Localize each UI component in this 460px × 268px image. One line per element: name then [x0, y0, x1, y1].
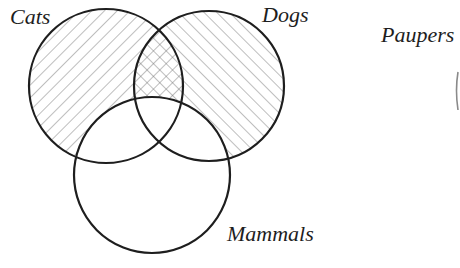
mammals-label: Mammals [227, 223, 314, 245]
dogs-label: Dogs [262, 4, 308, 26]
venn-diagram: Cats Dogs Mammals Paupers [0, 0, 460, 268]
cats-label: Cats [10, 6, 50, 28]
paupers-circle-edge [457, 72, 459, 110]
paupers-label: Paupers [381, 24, 454, 46]
